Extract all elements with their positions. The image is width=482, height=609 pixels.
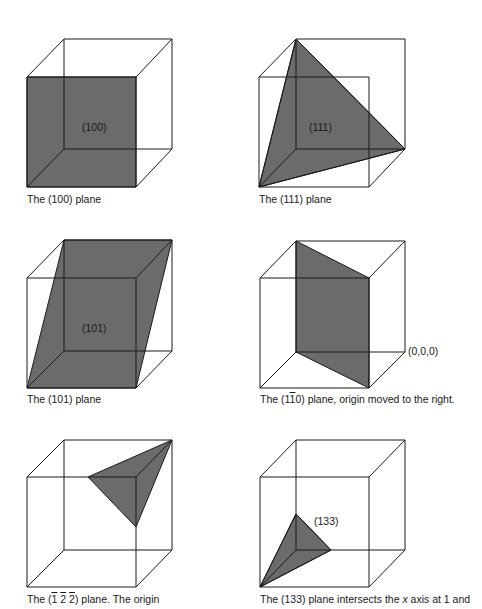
caption-prefix: The (	[27, 593, 52, 605]
panel-111: (111)	[259, 39, 405, 187]
caption-suffix: axis at 1 and	[408, 593, 470, 605]
panel-133: (133)	[260, 440, 405, 587]
cube-edges	[260, 440, 405, 587]
panel-1-10: (0,0,0)	[260, 241, 438, 388]
plane-label: (100)	[82, 121, 107, 133]
panel-neg122	[27, 440, 172, 587]
plane-label: (133)	[314, 515, 339, 527]
caption-overbar-2a: 2	[60, 593, 66, 605]
caption-suffix: 0) plane, origin moved to the right.	[295, 393, 454, 405]
plane-label: (111)	[309, 121, 332, 133]
panel-100: (100)	[27, 39, 172, 187]
caption-133: The (133) plane intersects the x axis at…	[260, 593, 470, 605]
panel-101: (101)	[27, 240, 172, 388]
caption-prefix: The (1	[260, 393, 290, 405]
plane-label: (101)	[82, 322, 107, 334]
cube-edges	[27, 440, 172, 587]
caption-111: The (111) plane	[259, 193, 332, 205]
caption-overbar-1: 1	[52, 593, 58, 605]
crystal-planes-figure: (100) (111) (101)	[0, 0, 482, 609]
caption-101: The (101) plane	[27, 393, 101, 405]
caption-prefix: The (133) plane intersects the	[260, 593, 402, 605]
caption-1-10: The (110) plane, origin moved to the rig…	[260, 393, 455, 405]
caption-suffix: ) plane. The origin	[75, 593, 159, 605]
plane-1-10	[296, 241, 369, 388]
caption-neg122: The (1 2 2) plane. The origin	[27, 593, 159, 605]
caption-100: The (100) plane	[27, 193, 101, 205]
origin-label: (0,0,0)	[408, 345, 438, 357]
